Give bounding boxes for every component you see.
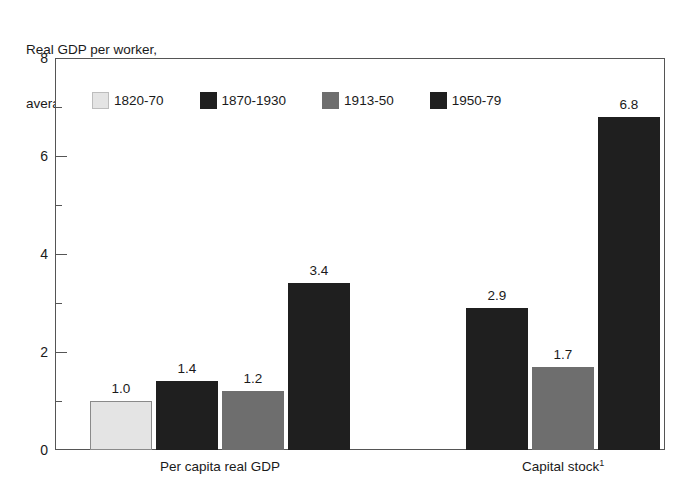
y-axis-tick-label: 8 — [2, 51, 48, 65]
y-axis-tick-major — [55, 58, 67, 59]
y-axis-tick-label: 2 — [2, 345, 48, 359]
legend-item-label: 1870-1930 — [222, 94, 287, 108]
y-axis-tick-minor — [55, 107, 62, 108]
legend-item-label: 1913-50 — [344, 94, 394, 108]
legend: 1820-701870-19301913-501950-79 — [92, 92, 501, 109]
legend-swatch-icon — [322, 92, 339, 109]
legend-item[interactable]: 1950-79 — [430, 92, 502, 109]
y-axis-tick-label: 6 — [2, 149, 48, 163]
legend-item[interactable]: 1870-1930 — [200, 92, 287, 109]
y-axis-tick-label: 0 — [2, 443, 48, 457]
category-label-text: Per capita real GDP — [160, 459, 280, 474]
y-axis-tick-minor — [55, 303, 62, 304]
legend-swatch-icon — [430, 92, 447, 109]
category-label-text: Capital stock — [522, 459, 599, 474]
category-label-footnote: 1 — [599, 458, 604, 468]
legend-item[interactable]: 1820-70 — [92, 92, 164, 109]
y-axis-tick-label: 4 — [2, 247, 48, 261]
y-axis-tick-minor — [55, 401, 62, 402]
category-label: Per capita real GDP — [160, 459, 280, 474]
y-axis-tick-minor — [55, 205, 62, 206]
y-axis: 02468 — [0, 0, 48, 496]
y-axis-tick-major — [55, 254, 67, 255]
legend-item-label: 1820-70 — [114, 94, 164, 108]
legend-swatch-icon — [200, 92, 217, 109]
legend-item-label: 1950-79 — [452, 94, 502, 108]
legend-item[interactable]: 1913-50 — [322, 92, 394, 109]
category-label: Capital stock1 — [522, 459, 604, 474]
y-axis-tick-major — [55, 156, 67, 157]
chart-title-line-1: Real GDP per worker, — [26, 41, 271, 59]
plot-area — [55, 58, 665, 450]
y-axis-tick-major — [55, 352, 67, 353]
legend-swatch-icon — [92, 92, 109, 109]
